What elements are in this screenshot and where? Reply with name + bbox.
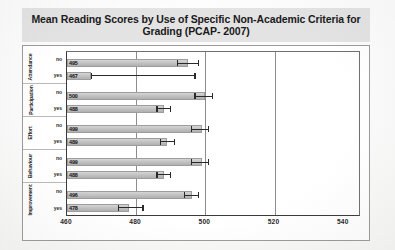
response-label-yes: yes: [37, 133, 64, 149]
error-cap-high: [174, 139, 175, 145]
category-group-participation: Participationnoyes: [23, 84, 66, 117]
error-cap-low: [160, 139, 161, 145]
response-label-yes: yes: [37, 100, 64, 116]
category-label-participation: Participation: [24, 84, 37, 116]
error-cap-high: [198, 192, 199, 198]
bar-row: 500: [67, 92, 361, 100]
response-labels: noyes: [37, 150, 66, 182]
chart-page: Mean Reading Scores by Use of Specific N…: [0, 0, 395, 250]
error-bar: [192, 129, 209, 130]
category-group-behaviour: Behaviournoyes: [23, 150, 66, 183]
x-tick-480: 480: [129, 218, 141, 225]
bar-participation-yes: [67, 105, 164, 113]
error-bar: [192, 162, 209, 163]
page-title: Mean Reading Scores by Use of Specific N…: [22, 13, 370, 38]
response-labels: noyes: [37, 51, 66, 83]
category-label-effort: Effort: [24, 117, 37, 149]
bar-value-label: 496: [69, 191, 78, 199]
bar-value-label: 500: [69, 92, 78, 100]
bar-value-label: 488: [69, 171, 78, 179]
bar-value-label: 478: [69, 204, 78, 212]
error-bar: [91, 75, 195, 76]
error-cap-high: [198, 60, 199, 66]
error-cap-high: [212, 93, 213, 99]
error-cap-high: [170, 172, 171, 178]
response-label-no: no: [37, 51, 64, 67]
response-label-yes: yes: [37, 200, 64, 217]
error-bar: [185, 195, 199, 196]
x-tick-500: 500: [199, 218, 211, 225]
chart-frame: AttendancenoyesParticipationnoyesEffortn…: [22, 45, 370, 241]
category-group-attendance: Attendancenoyes: [23, 51, 66, 84]
error-cap-low: [184, 192, 185, 198]
error-bar: [157, 108, 171, 109]
bar-value-label: 499: [69, 158, 78, 166]
error-bar: [160, 141, 174, 142]
error-cap-low: [191, 126, 192, 132]
bar-row: 488: [67, 105, 361, 113]
bar-improvement-no: [67, 191, 192, 199]
category-group-effort: Effortnoyes: [23, 117, 66, 150]
response-label-no: no: [37, 84, 64, 100]
error-bar: [178, 63, 199, 64]
response-label-no: no: [37, 183, 64, 200]
x-tick-540: 540: [337, 218, 349, 225]
error-cap-low: [191, 159, 192, 165]
error-cap-low: [177, 60, 178, 66]
response-label-no: no: [37, 117, 64, 133]
error-bar: [195, 96, 212, 97]
response-labels: noyes: [37, 183, 66, 216]
bar-value-label: 488: [69, 105, 78, 113]
error-cap-high: [208, 159, 209, 165]
error-cap-high: [142, 205, 143, 211]
response-labels: noyes: [37, 84, 66, 116]
bar-value-label: 499: [69, 125, 78, 133]
response-labels: noyes: [37, 117, 66, 149]
x-axis: 460480500520540: [66, 217, 360, 233]
response-label-yes: yes: [37, 67, 64, 83]
bar-row: 489: [67, 138, 361, 146]
bar-value-label: 489: [69, 138, 78, 146]
bar-value-label: 467: [69, 72, 78, 80]
bar-effort-yes: [67, 138, 167, 146]
bar-row: 478: [67, 204, 361, 212]
bar-row: 488: [67, 171, 361, 179]
plot-area: 495467500488499489499488496478: [66, 51, 360, 216]
chart-title-band: Mean Reading Scores by Use of Specific N…: [22, 8, 370, 42]
bar-row: 499: [67, 158, 361, 166]
category-group-improvement: Improvementnoyes: [23, 183, 66, 216]
response-label-yes: yes: [37, 166, 64, 182]
x-tick-460: 460: [60, 218, 72, 225]
response-label-no: no: [37, 150, 64, 166]
error-cap-high: [194, 73, 195, 79]
x-tick-520: 520: [268, 218, 280, 225]
error-cap-high: [208, 126, 209, 132]
bar-row: 499: [67, 125, 361, 133]
error-cap-low: [156, 106, 157, 112]
error-bar: [157, 174, 171, 175]
bar-participation-no: [67, 92, 205, 100]
error-cap-low: [118, 205, 119, 211]
error-cap-low: [91, 73, 92, 79]
category-axis: AttendancenoyesParticipationnoyesEffortn…: [23, 51, 66, 216]
error-cap-low: [156, 172, 157, 178]
bar-row: 467: [67, 72, 361, 80]
bar-behaviour-yes: [67, 171, 164, 179]
bar-attendance-no: [67, 59, 188, 67]
bar-row: 495: [67, 59, 361, 67]
error-bar: [119, 207, 143, 208]
bar-row: 496: [67, 191, 361, 199]
bar-effort-no: [67, 125, 202, 133]
category-label-behaviour: Behaviour: [24, 150, 37, 182]
error-cap-low: [194, 93, 195, 99]
category-label-improvement: Improvement: [24, 183, 37, 216]
bar-behaviour-no: [67, 158, 202, 166]
error-cap-high: [170, 106, 171, 112]
category-label-attendance: Attendance: [24, 51, 37, 83]
bar-value-label: 495: [69, 59, 78, 67]
